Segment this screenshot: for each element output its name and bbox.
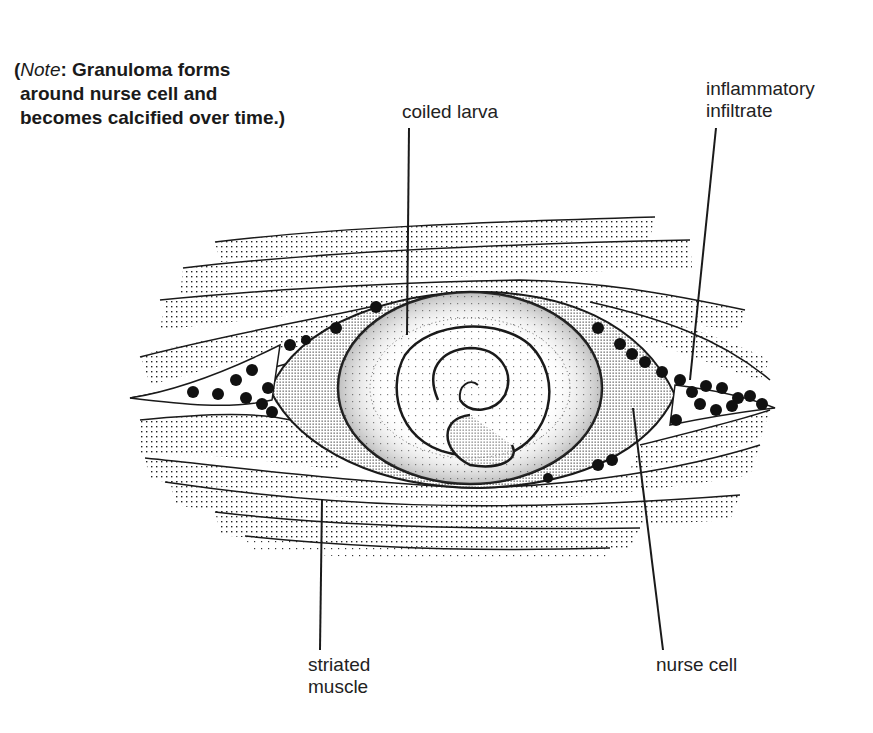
label-inflammatory-infiltrate: inflammatory infiltrate [706, 78, 815, 122]
label-striated-line2: muscle [308, 676, 370, 698]
label-inflammatory-line2: infiltrate [706, 100, 815, 122]
label-inflammatory-line1: inflammatory [706, 78, 815, 100]
label-nurse-cell: nurse cell [656, 654, 737, 676]
coiled-larva [338, 292, 602, 484]
label-striated-line1: striated [308, 654, 370, 676]
label-coiled-larva: coiled larva [402, 101, 498, 123]
label-striated-muscle: striated muscle [308, 654, 370, 698]
